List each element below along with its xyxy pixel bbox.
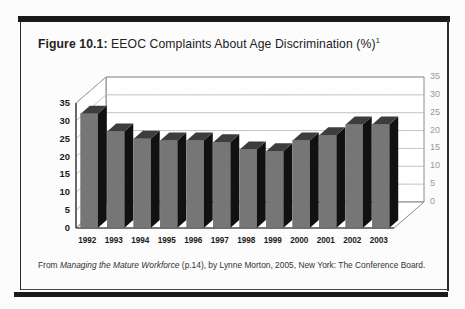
bar-side-face xyxy=(283,143,292,228)
figure-frame-bottom-rule xyxy=(14,292,448,297)
x-axis-tick-label: 1997 xyxy=(207,236,234,245)
y-axis-right-tick-label: 5 xyxy=(430,178,452,188)
bar-column xyxy=(293,133,319,229)
figure-title: Figure 10.1: EEOC Complaints About Age D… xyxy=(38,36,380,51)
bar-front-face xyxy=(187,141,204,229)
x-axis-tick-label: 1996 xyxy=(180,236,207,245)
bar-front-face xyxy=(107,132,124,228)
bar-side-face xyxy=(98,106,107,228)
x-axis-tick-label: 1995 xyxy=(154,236,181,245)
x-axis-tick-label: 1993 xyxy=(101,236,128,245)
bar-side-face xyxy=(230,134,239,228)
bar-front-face xyxy=(160,141,177,229)
figure-title-text: EEOC Complaints About Age Discrimination… xyxy=(111,37,376,51)
y-axis-left-tick-label: 25 xyxy=(48,133,70,144)
bar-front-face xyxy=(266,151,283,228)
y-axis-left-tick-label: 30 xyxy=(48,115,70,126)
source-caption: From Managing the Mature Workforce (p.14… xyxy=(38,260,425,270)
bar-side-face xyxy=(257,141,266,228)
bar-front-face xyxy=(319,135,336,228)
y-axis-right-tick-label: 25 xyxy=(430,107,452,117)
x-axis-tick-label: 2003 xyxy=(366,236,393,245)
x-axis-tick-label: 2001 xyxy=(313,236,340,245)
bar-front-face xyxy=(134,139,151,228)
y-axis-left-tick-label: 20 xyxy=(48,151,70,162)
bar-chart: 0510152025303505101520253035199219931994… xyxy=(28,76,438,244)
bar-side-face xyxy=(124,124,133,228)
y-axis-right-tick-label: 0 xyxy=(430,196,452,206)
bar-column xyxy=(81,106,107,228)
figure-frame-right-rule xyxy=(447,20,449,291)
bar-front-face xyxy=(346,124,363,228)
x-axis-tick-label: 2000 xyxy=(286,236,313,245)
bar-column xyxy=(240,141,266,228)
bar-column xyxy=(134,131,160,228)
bar-side-face xyxy=(389,116,398,228)
bar-side-face xyxy=(336,127,345,228)
bar-front-face xyxy=(81,114,98,228)
bar-front-face xyxy=(240,149,257,228)
bar-column xyxy=(187,133,213,229)
chart-canvas xyxy=(28,76,438,244)
y-axis-right-tick-label: 30 xyxy=(430,89,452,99)
x-axis-tick-label: 1999 xyxy=(260,236,287,245)
y-axis-right-tick-label: 35 xyxy=(430,71,452,81)
bar-side-face xyxy=(363,116,372,228)
bar-side-face xyxy=(177,133,186,229)
y-axis-left-tick-label: 35 xyxy=(48,97,70,108)
bar-side-face xyxy=(151,131,160,228)
figure-number-label: Figure 10.1: xyxy=(38,37,108,51)
bar-column xyxy=(107,124,133,228)
caption-work-title: Managing the Mature Workforce xyxy=(60,260,180,270)
caption-prefix: From xyxy=(38,260,60,270)
y-axis-left-tick-label: 0 xyxy=(48,222,70,233)
bar-front-face xyxy=(213,142,230,228)
x-axis-tick-label: 1992 xyxy=(74,236,101,245)
bar-side-face xyxy=(310,133,319,229)
figure-frame-left-rule xyxy=(20,22,21,290)
y-axis-left-tick-label: 5 xyxy=(48,204,70,215)
x-axis-tick-label: 1994 xyxy=(127,236,154,245)
figure-footnote-marker: 1 xyxy=(376,36,380,45)
figure-page: Figure 10.1: EEOC Complaints About Age D… xyxy=(0,0,465,309)
y-axis-right-tick-label: 20 xyxy=(430,125,452,135)
caption-suffix: (p.14), by Lynne Morton, 2005, New York:… xyxy=(180,260,426,270)
y-axis-left-tick-label: 15 xyxy=(48,168,70,179)
bar-column xyxy=(266,143,292,228)
figure-frame-inner-bottom-rule xyxy=(21,289,448,290)
bar-column xyxy=(346,116,372,228)
y-axis-right-tick-label: 15 xyxy=(430,142,452,152)
bar-front-face xyxy=(293,141,310,229)
bar-column xyxy=(372,116,398,228)
bar-side-face xyxy=(204,133,213,229)
bar-column xyxy=(213,134,239,228)
y-axis-right-tick-label: 10 xyxy=(430,160,452,170)
bar-front-face xyxy=(372,124,389,228)
y-axis-left-tick-label: 10 xyxy=(48,186,70,197)
bar-column xyxy=(319,127,345,228)
figure-frame-top-rule xyxy=(18,16,450,22)
x-axis-tick-label: 1998 xyxy=(233,236,260,245)
bar-column xyxy=(160,133,186,229)
x-axis-tick-label: 2002 xyxy=(339,236,366,245)
